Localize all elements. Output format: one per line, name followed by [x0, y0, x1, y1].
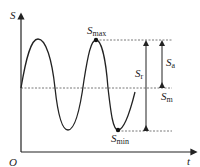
- s-a-label: Sa: [166, 56, 176, 70]
- s-max-point: [94, 38, 98, 42]
- stress-curve: [21, 39, 135, 130]
- s-m-label: Sm: [161, 90, 174, 104]
- x-axis-label: t: [187, 155, 191, 167]
- s-r-label: Sr: [135, 67, 144, 81]
- s-min-label: Smin: [111, 132, 129, 146]
- origin-label: O: [9, 156, 17, 167]
- s-max-label: Smax: [87, 24, 106, 38]
- stress-cycle-diagram: S t O Smax Smin Sm Sa Sr: [0, 0, 200, 167]
- y-axis-label: S: [10, 9, 16, 21]
